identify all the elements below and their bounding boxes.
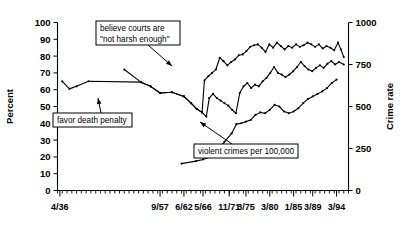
series-marker [326, 87, 328, 89]
series-marker [322, 47, 324, 49]
series-marker [295, 43, 297, 45]
series-marker [314, 46, 316, 48]
y-axis-right-tick-label: 1000 [356, 17, 377, 28]
series-marker [307, 98, 309, 100]
series-marker [297, 107, 299, 109]
series-marker [283, 110, 285, 112]
y-axis-left-tick-label: 20 [40, 151, 51, 162]
series-marker [235, 112, 237, 114]
y-axis-left-tick-label: 60 [40, 84, 51, 95]
series-marker [87, 80, 89, 82]
series-marker [159, 92, 161, 94]
series-marker [268, 43, 270, 45]
series-marker [336, 79, 338, 81]
series-marker [242, 53, 244, 55]
series-marker [300, 61, 302, 63]
death-penalty-annotation-text-line: favor death penalty [57, 116, 128, 125]
series-marker [215, 68, 217, 70]
y-axis-left-title: Percent [4, 88, 15, 124]
series-marker [231, 109, 233, 111]
series-marker [222, 60, 224, 62]
series-marker [276, 42, 278, 44]
series-marker [288, 74, 290, 76]
series-marker [231, 132, 233, 134]
series-marker [246, 82, 248, 84]
series-marker [180, 163, 182, 165]
series-marker [281, 74, 283, 76]
series-marker [245, 121, 247, 123]
series-marker [216, 97, 218, 99]
y-axis-left-tick-label: 90 [40, 34, 51, 45]
series-marker [61, 80, 63, 82]
violent-crimes-annotation-arrowhead [200, 122, 206, 127]
x-axis-tick-label: 3/80 [261, 202, 279, 212]
series-marker [343, 56, 345, 58]
death-penalty-annotation-arrowhead [97, 98, 102, 104]
y-axis-right-tick-label: 500 [356, 101, 372, 112]
series-marker [299, 46, 301, 48]
x-axis-tick-label: 5/66 [194, 202, 212, 212]
series-line-1 [62, 61, 343, 116]
series-marker [340, 48, 342, 50]
series-marker [205, 116, 207, 118]
series-marker [261, 47, 263, 49]
series-marker [284, 48, 286, 50]
series-marker [123, 68, 125, 70]
x-axis-tick-label: 3/94 [328, 202, 346, 212]
x-axis-tick-label: 3/75 [237, 202, 255, 212]
series-marker [310, 43, 312, 45]
series-marker [269, 72, 271, 74]
series-marker [326, 45, 328, 47]
series-marker [274, 104, 276, 106]
series-marker [315, 67, 317, 69]
series-marker [334, 63, 336, 65]
series-marker [318, 43, 320, 45]
series-marker [171, 91, 173, 93]
series-marker [337, 42, 339, 44]
chart-canvas: 010203040506070809010002505007501000Perc… [0, 0, 403, 235]
series-marker [272, 47, 274, 49]
series-marker [250, 87, 252, 89]
y-axis-left-tick-label: 40 [40, 118, 51, 129]
y-axis-left-tick-label: 50 [40, 101, 51, 112]
series-marker [245, 50, 247, 52]
series-marker [333, 49, 335, 51]
series-marker [212, 93, 214, 95]
series-marker [306, 42, 308, 44]
series-marker [223, 141, 225, 143]
series-marker [277, 72, 279, 74]
series-marker [293, 110, 295, 112]
y-axis-right-tick-label: 0 [356, 185, 361, 196]
series-marker [149, 85, 151, 87]
series-marker [265, 77, 267, 79]
courts-annotation-text-line: believe courts are [100, 24, 165, 33]
series-marker [239, 92, 241, 94]
series-marker [196, 108, 198, 110]
crime-and-attitudes-line-chart: 010203040506070809010002505007501000Perc… [0, 0, 403, 235]
series-marker [292, 70, 294, 72]
y-axis-left-tick-label: 80 [40, 51, 51, 62]
series-marker [278, 105, 280, 107]
series-marker [201, 111, 203, 113]
series-marker [323, 67, 325, 69]
x-axis-tick-label: 6/62 [175, 202, 193, 212]
series-marker [183, 95, 185, 97]
series-marker [284, 76, 286, 78]
series-marker [296, 66, 298, 68]
series-marker [254, 114, 256, 116]
series-marker [259, 111, 261, 113]
y-axis-left-tick-label: 0 [45, 185, 50, 196]
series-marker [264, 51, 266, 53]
series-marker [227, 105, 229, 107]
x-axis-tick-label: 4/36 [51, 202, 69, 212]
series-marker [287, 45, 289, 47]
y-axis-right-title: Crime rate [384, 83, 395, 130]
y-axis-right-tick-label: 250 [356, 143, 372, 154]
series-marker [311, 70, 313, 72]
series-marker [291, 47, 293, 49]
series-marker [329, 47, 331, 49]
series-marker [330, 60, 332, 62]
series-marker [269, 109, 271, 111]
series-marker [321, 90, 323, 92]
y-axis-left-tick-label: 70 [40, 67, 51, 78]
